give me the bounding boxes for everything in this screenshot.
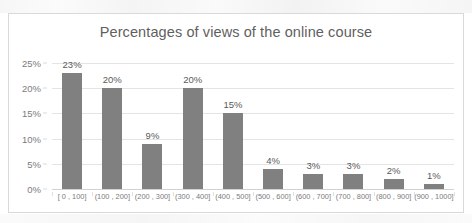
bar-group: 15%	[213, 63, 253, 189]
bar-value-label: 4%	[266, 155, 280, 166]
x-axis-tick-mark	[173, 192, 174, 196]
scan-artifact-top	[0, 0, 472, 13]
bar[interactable]	[62, 73, 82, 189]
y-axis-tick-label: 10%	[22, 133, 41, 144]
x-axis-tick-label: (400 , 500]	[215, 192, 250, 201]
x-axis-tick-mark	[213, 192, 214, 196]
bar-group: 4%	[253, 63, 293, 189]
y-axis-tick-mark	[43, 113, 47, 114]
x-axis-tick-mark	[333, 192, 334, 196]
bar[interactable]	[102, 88, 122, 189]
bar-value-label: 20%	[183, 74, 202, 85]
bar-value-label: 3%	[306, 160, 320, 171]
bar-value-label: 3%	[347, 160, 361, 171]
x-axis-tick-mark	[374, 192, 375, 196]
x-axis-tick-mark	[454, 192, 455, 196]
bar[interactable]	[142, 144, 162, 189]
x-axis-tick-label: (500 , 600]	[255, 192, 290, 201]
scan-artifact-bottom	[0, 214, 472, 223]
x-axis-tick-mark	[52, 192, 53, 196]
bar-series: 23%20%9%20%15%4%3%3%2%1%	[52, 63, 454, 189]
x-axis-tick-mark	[92, 192, 93, 196]
bar-value-label: 9%	[146, 130, 160, 141]
bar[interactable]	[223, 113, 243, 189]
x-axis-tick-label: (700 , 800]	[336, 192, 371, 201]
y-axis-tick-mark	[43, 163, 47, 164]
x-axis-tick-mark	[414, 192, 415, 196]
y-axis-tick-mark	[43, 138, 47, 139]
bar-group: 2%	[374, 63, 414, 189]
bar[interactable]	[263, 169, 283, 189]
chart-container: Percentages of views of the online cours…	[8, 13, 464, 213]
y-axis-tick-label: 25%	[22, 58, 41, 69]
y-axis-tick-label: 0%	[27, 184, 41, 195]
bar-group: 3%	[293, 63, 333, 189]
x-axis: [ 0 , 100](100 , 200](200 , 300](300 , 4…	[52, 192, 454, 208]
x-axis-tick-mark	[132, 192, 133, 196]
bar-value-label: 20%	[103, 74, 122, 85]
x-axis-tick-mark	[253, 192, 254, 196]
bar-value-label: 15%	[223, 99, 242, 110]
y-axis-tick-mark	[43, 189, 47, 190]
x-axis-tick-label: (900 , 1000]	[414, 192, 453, 201]
x-axis-tick-label: (800 , 900]	[376, 192, 411, 201]
x-axis-tick-label: (100 , 200]	[95, 192, 130, 201]
y-axis-tick-label: 20%	[22, 83, 41, 94]
x-axis-tick-label: [ 0 , 100]	[58, 192, 87, 201]
x-axis-tick-mark	[293, 192, 294, 196]
axis-baseline	[52, 189, 454, 190]
bar-value-label: 2%	[387, 165, 401, 176]
bar[interactable]	[384, 179, 404, 189]
y-axis-tick-mark	[43, 63, 47, 64]
x-axis-tick-label: (600 , 700]	[296, 192, 331, 201]
bar[interactable]	[343, 174, 363, 189]
y-axis-tick-label: 5%	[27, 158, 41, 169]
bar-group: 3%	[333, 63, 373, 189]
y-axis: 0%5%10%15%20%25%	[9, 63, 47, 189]
bar-group: 1%	[414, 63, 454, 189]
bar-value-label: 1%	[427, 170, 441, 181]
y-axis-tick-label: 15%	[22, 108, 41, 119]
bar-value-label: 23%	[63, 59, 82, 70]
x-axis-tick-label: (300 , 400]	[175, 192, 210, 201]
bar[interactable]	[183, 88, 203, 189]
bar-group: 9%	[132, 63, 172, 189]
bar[interactable]	[424, 184, 444, 189]
bar-group: 20%	[92, 63, 132, 189]
bar-group: 23%	[52, 63, 92, 189]
y-axis-tick-mark	[43, 88, 47, 89]
chart-title: Percentages of views of the online cours…	[9, 24, 463, 40]
x-axis-tick-label: (200 , 300]	[135, 192, 170, 201]
bar[interactable]	[303, 174, 323, 189]
bar-group: 20%	[173, 63, 213, 189]
